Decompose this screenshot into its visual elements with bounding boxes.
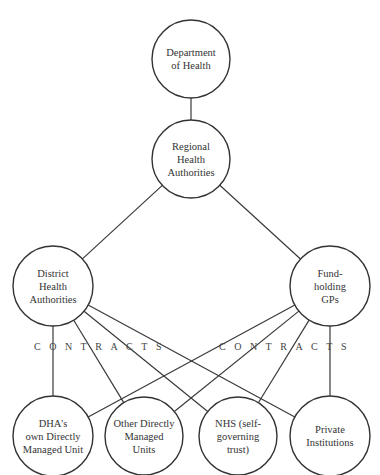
node-label-dha_unit: DHA's own Directly Managed Unit [13,396,93,475]
contracts-annotation: CONTRACTS [219,341,355,352]
edge-rha-gps [220,185,301,259]
edge-rha-dha [82,185,162,259]
edge-gps-nhs_trust [258,320,309,403]
node-label-nhs_trust: NHS (self- governing trust) [199,397,277,475]
contracts-annotation: CONTRACTS [34,341,170,352]
node-label-other_units: Other Directly Managed Units [105,397,183,475]
edge-dha-other_units [74,320,124,402]
node-label-dha: District Health Authorities [13,246,93,326]
node-label-gps: Fund- holding GPs [290,246,370,326]
node-label-dept: Department of Health [152,20,230,98]
node-label-rha: Regional Health Authorities [152,120,230,198]
node-label-private: Private Institutions [290,396,370,475]
